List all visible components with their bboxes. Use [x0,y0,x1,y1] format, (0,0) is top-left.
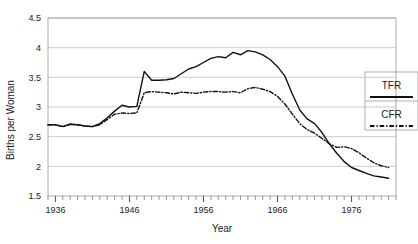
y-tick-label: 4.5 [28,13,41,23]
y-tick-label: 2 [36,162,41,172]
x-axis-title: Year [212,223,233,234]
x-axis-ticks: 19361946195619661976 [45,196,396,215]
x-tick-label: 1966 [268,205,288,215]
x-tick-label: 1946 [119,205,139,215]
y-axis-ticks: 4.543.532.521.5 [28,13,41,201]
y-axis-title: Births per Woman [5,80,16,160]
y-tick-label: 2.5 [28,132,41,142]
x-tick-label: 1976 [342,205,362,215]
gridlines [48,18,396,166]
x-tick-label: 1936 [45,205,65,215]
legend-label-tfr: TFR [382,80,401,91]
x-tick-label: 1956 [193,205,213,215]
series-line-cfr [48,87,389,167]
y-tick-label: 3 [36,102,41,112]
chart-legend: TFRCFR [365,72,418,130]
y-tick-label: 3.5 [28,73,41,83]
chart-container: 4.543.532.521.5 19361946195619661976 TFR… [0,0,418,244]
series-line-tfr [48,51,389,179]
y-tick-label: 4 [36,43,41,53]
data-series-group [48,51,389,179]
legend-label-cfr: CFR [381,109,402,120]
fertility-rate-line-chart: 4.543.532.521.5 19361946195619661976 TFR… [0,0,418,244]
y-tick-label: 1.5 [28,191,41,201]
